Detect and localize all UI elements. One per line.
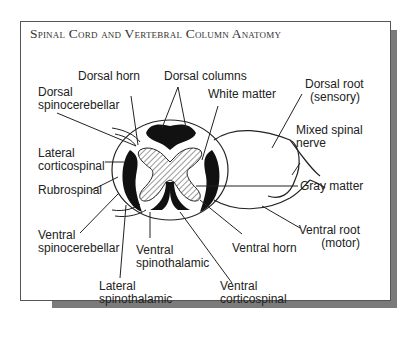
label-gray-matter: Gray matter [300,180,363,193]
ventral-root [214,180,310,209]
label-dorsal-spinocerebellar: Dorsal spinocerebellar [38,86,119,112]
label-lateral-spinothalamic: Lateral spinothalamic [99,280,172,306]
label-lateral-corticospinal-line2: corticospinal [38,160,105,173]
label-ventral-spinothalamic: Ventral spinothalamic [136,244,209,270]
label-ventral-root-line2: (motor) [296,237,360,250]
label-mixed-spinal-nerve-line2: nerve [296,137,363,150]
label-dorsal-root: Dorsal root (sensory) [305,78,360,104]
label-ventral-spinocerebellar: Ventral spinocerebellar [38,229,119,255]
label-ventral-horn: Ventral horn [232,242,297,255]
label-lateral-spinothalamic-line2: spinothalamic [99,293,172,306]
label-ventral-root: Ventral root (motor) [296,224,360,250]
label-dorsal-horn: Dorsal horn [78,70,140,83]
label-dorsal-columns: Dorsal columns [164,70,247,83]
label-ventral-corticospinal: Ventral corticospinal [220,280,287,306]
label-dorsal-spinocerebellar-line2: spinocerebellar [38,99,119,112]
label-ventral-corticospinal-line2: corticospinal [220,293,287,306]
label-ventral-spinocerebellar-line2: spinocerebellar [38,242,119,255]
label-dorsal-root-line2: (sensory) [305,91,360,104]
label-mixed-spinal-nerve: Mixed spinal nerve [296,124,363,150]
label-ventral-spinothalamic-line2: spinothalamic [136,257,209,270]
label-lateral-corticospinal: Lateral corticospinal [38,147,105,173]
label-white-matter: White matter [208,88,276,101]
label-rubrospinal: Rubrospinal [38,184,102,197]
